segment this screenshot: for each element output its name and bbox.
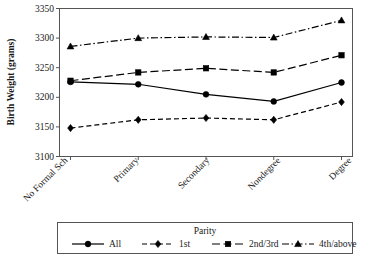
- x-axis-tick-labels: No Formal Sch Primary Secondary Nondegre…: [21, 155, 353, 203]
- data-point: [271, 70, 276, 75]
- data-point: [203, 91, 209, 97]
- x-tick-label-no-formal-sch: No Formal Sch: [21, 155, 69, 203]
- legend-item-label: 4th/above: [319, 239, 356, 249]
- data-point: [135, 116, 141, 123]
- legend-item-label: All: [109, 239, 122, 249]
- y-tick-label-3100: 3100: [35, 152, 54, 162]
- y-tick-label-3350: 3350: [35, 4, 54, 14]
- series-2nd-3rd: [68, 53, 344, 84]
- x-tick-label-degree: Degree: [327, 155, 353, 181]
- y-tick-label-3250: 3250: [35, 63, 54, 73]
- legend-marker: [155, 240, 161, 247]
- legend-item-label: 2nd/3rd: [249, 239, 279, 249]
- legend-item-1st[interactable]: 1st: [142, 239, 190, 249]
- legend-item-label: 1st: [179, 239, 190, 249]
- x-tick-label-nondegree: Nondegree: [246, 155, 283, 192]
- data-point: [339, 80, 345, 86]
- y-axis-ticks: [56, 9, 60, 157]
- chart-figure: 3100 3150 3200 3250 3300 3350 Birth Weig…: [0, 0, 367, 262]
- data-point: [203, 66, 208, 71]
- series-1st: [68, 98, 345, 131]
- data-point: [338, 17, 345, 23]
- chart-canvas: 3100 3150 3200 3250 3300 3350 Birth Weig…: [0, 0, 367, 262]
- data-point: [68, 78, 73, 83]
- data-point: [271, 116, 277, 123]
- data-point: [271, 99, 277, 105]
- data-point: [68, 124, 74, 131]
- series-all: [68, 79, 345, 104]
- data-point: [136, 70, 141, 75]
- y-tick-label-3300: 3300: [35, 33, 54, 43]
- y-tick-label-3150: 3150: [35, 122, 54, 132]
- y-axis-title: Birth Weight (grams): [6, 39, 17, 126]
- legend-item-4th-above[interactable]: 4th/above: [282, 239, 356, 249]
- data-point: [135, 81, 141, 87]
- legend-marker: [85, 241, 91, 247]
- data-point: [203, 114, 209, 121]
- legend-item-all[interactable]: All: [72, 239, 122, 249]
- legend-item-2nd-3rd[interactable]: 2nd/3rd: [212, 239, 279, 249]
- series-4th-above: [67, 17, 345, 49]
- x-tick-label-secondary: Secondary: [176, 155, 212, 191]
- legend-marker: [225, 241, 230, 246]
- legend-title: Parity: [194, 226, 217, 236]
- y-tick-label-3200: 3200: [35, 92, 54, 102]
- y-axis-tick-labels: 3100 3150 3200 3250 3300 3350: [35, 4, 54, 162]
- data-point: [339, 53, 344, 58]
- x-tick-label-primary: Primary: [112, 155, 141, 184]
- data-point: [339, 98, 345, 105]
- series-layer: [67, 17, 345, 132]
- legend-items: All1st2nd/3rd4th/above: [72, 239, 356, 249]
